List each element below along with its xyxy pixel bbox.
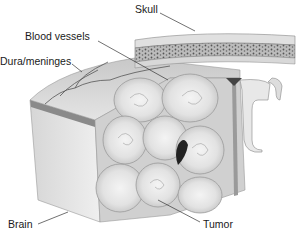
tumor-lobes	[96, 74, 224, 213]
brain-tumor-diagram: Skull Blood vessels Dura/meninges Brain …	[0, 0, 297, 233]
label-skull: Skull	[135, 4, 158, 15]
label-brain: Brain	[8, 219, 33, 230]
label-dura-meninges: Dura/meninges	[0, 56, 71, 67]
label-tumor: Tumor	[203, 219, 233, 230]
label-blood-vessels: Blood vessels	[25, 31, 90, 42]
